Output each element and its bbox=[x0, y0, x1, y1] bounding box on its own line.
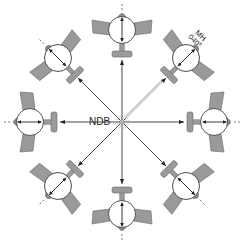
aircraft-north bbox=[92, 3, 152, 57]
highlighted-bearing bbox=[126, 80, 163, 117]
ndb-diagram: NDB MH 040° bbox=[0, 0, 245, 247]
aircraft-east bbox=[187, 92, 241, 152]
aircraft-west bbox=[3, 92, 57, 152]
ndb-radial-diagram: NDB MH 040° bbox=[0, 0, 245, 247]
ndb-label: NDB bbox=[89, 116, 110, 127]
aircraft-south bbox=[92, 187, 152, 241]
